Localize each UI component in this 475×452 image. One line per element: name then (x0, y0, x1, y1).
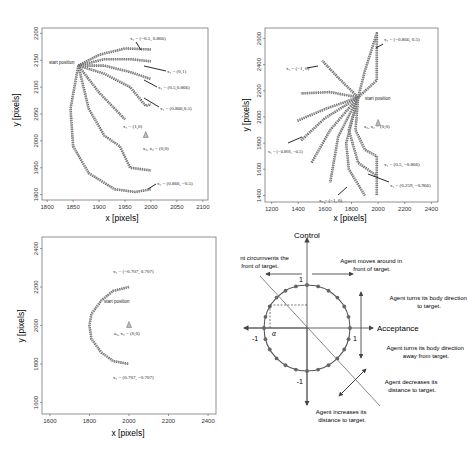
trajectory-label: x₁ = (−1, 0) (286, 66, 310, 72)
trajectory-label: x₁ = (−0.866, −0.5) (268, 149, 303, 155)
circle-point (294, 368, 298, 372)
y-tick-label: 1400 (256, 188, 262, 202)
trajectory-label: x₁ = (−0.5, 0.866) (130, 36, 166, 42)
annotation-moves-around: Agent moves around in front of target. (340, 258, 403, 272)
circle-point (316, 368, 320, 372)
trajectory-core (78, 66, 151, 171)
alpha-label: α (272, 329, 277, 338)
acceptance-label: Acceptance (377, 324, 419, 333)
trajectory-label: x₁ = (0.5,0.866) (158, 85, 190, 91)
circle-point (348, 326, 352, 330)
circle-point (336, 296, 340, 300)
y-tick-label: 2400 (256, 57, 262, 71)
x-tick-label: 1800 (345, 206, 359, 212)
circle-point (275, 357, 279, 361)
x-tick-label: 1200 (265, 206, 279, 212)
target-label: a₂, x₂ = (0,0) (364, 124, 390, 130)
annotation-increases: Agent increases its distance to target. (316, 409, 368, 423)
x-axis-label: x [pixels] (333, 213, 366, 223)
trajectory-label: x₁ = (0.5, −0.866) (384, 162, 420, 168)
circle-point (342, 348, 346, 352)
x-tick-label: 1950 (118, 204, 132, 210)
x-tick-label: 1800 (83, 418, 97, 424)
y-tick-label: 1950 (33, 160, 39, 174)
trajectory-label: x₁ = (−0.866, 0.5) (384, 37, 420, 43)
circle-point (262, 326, 266, 330)
y-tick-minus1: -1 (297, 378, 303, 385)
x-axis-label: x [pixels] (111, 428, 144, 438)
start-position-label: start position (365, 96, 391, 101)
circle-point (342, 305, 346, 309)
circle-point (347, 315, 351, 319)
circle-point (327, 289, 331, 293)
y-tick-label: 2200 (256, 83, 262, 97)
annotation-decreases: Agent decreases its distance to target. (385, 379, 439, 393)
start-position-label: start position (104, 299, 130, 304)
plot-frame (42, 28, 208, 200)
x-tick-label: 1600 (318, 206, 332, 212)
trajectory (78, 66, 151, 106)
y-tick-label: 1900 (33, 187, 39, 201)
x-tick-label: 2400 (425, 206, 439, 212)
y-axis-label: y [pixels] (241, 98, 251, 131)
x-tick-label: 1800 (41, 204, 55, 210)
annotation-turns-away: Agent turns its body direction away from… (386, 345, 465, 359)
y-tick-label: 2000 (33, 134, 39, 148)
trajectory-label: x₁ = (0.866, −0.5) (157, 181, 193, 187)
y-axis-label: y [pixels] (11, 93, 21, 126)
circle-point (316, 285, 320, 289)
x-tick-label: 1900 (92, 204, 106, 210)
trajectory-label: x₁ = (0.707, −0.707) (113, 375, 154, 381)
trajectory (78, 66, 151, 79)
circle-point (284, 289, 288, 293)
trajectory-core (355, 97, 376, 195)
x-tick-minus1: -1 (252, 335, 258, 342)
trajectory-label: x₁ = (0,1) (167, 69, 186, 75)
trajectory-label: x₁ = (−1, 0) (319, 198, 343, 204)
target-marker-icon (127, 322, 132, 328)
y-tick-label: 2400 (33, 241, 39, 255)
y-tick-label: 1600 (33, 395, 39, 409)
x-tick-label: 2050 (170, 204, 184, 210)
y-tick-label: 2000 (256, 110, 262, 124)
circle-point (264, 337, 268, 341)
target-label: a₂, x₂ = (0,0) (114, 331, 140, 337)
x-tick-label: 1850 (66, 204, 80, 210)
target-marker-icon (143, 132, 148, 138)
annotation-circumvent: Agent circumvents the front of target. (240, 255, 291, 269)
trajectory (355, 97, 376, 195)
trajectory-core (346, 97, 365, 195)
trajectory-label: x₁ = (0.866,0.5) (160, 106, 192, 112)
annotation-turns-to: Agent turns its body direction to target… (389, 295, 468, 309)
y-tick-label: 1600 (256, 162, 262, 176)
diagonal-line (260, 276, 380, 406)
trajectory-label: x₁ = (0.259, −0.966) (390, 183, 431, 189)
circle-point (284, 363, 288, 367)
trajectory (349, 97, 377, 175)
circle-point (347, 337, 351, 341)
plot-frame (265, 28, 438, 202)
trajectory-core (78, 66, 151, 106)
y-tick-label: 1800 (256, 136, 262, 150)
circle-point (264, 315, 268, 319)
trajectory-label: x₁ = (−0.707, 0.707) (113, 269, 154, 275)
trajectory (312, 97, 359, 162)
control-acceptance-diagram: Control Acceptance 1 -1 1 -1 α Agent cir… (240, 230, 475, 452)
x-tick-label: 2000 (371, 206, 385, 212)
y-tick-label: 2600 (256, 31, 262, 45)
circle-point (305, 369, 309, 373)
y-tick-label: 2150 (33, 53, 39, 67)
trajectory-core (349, 97, 377, 175)
y-tick-label: 1800 (33, 357, 39, 371)
x-axis-label: x [pixels] (105, 213, 138, 223)
y-tick-label: 2100 (33, 80, 39, 94)
x-tick-label: 2200 (398, 206, 412, 212)
x-tick-label: 2000 (144, 204, 158, 210)
circle-point (305, 283, 309, 287)
circle-point (268, 348, 272, 352)
y-tick-label: 2000 (33, 318, 39, 332)
x-tick-label: 2400 (201, 418, 215, 424)
x-tick-label: 1600 (43, 418, 57, 424)
y-tick-label: 2200 (33, 26, 39, 40)
plot-top-left: 1800185019001950200020502100190019502000… (0, 0, 240, 230)
